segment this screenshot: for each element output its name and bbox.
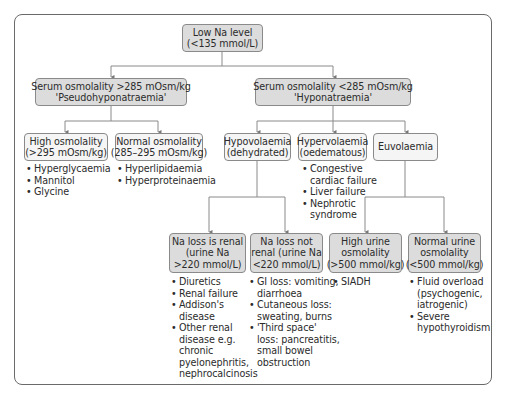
high-urine-line1: High urine [341,236,390,248]
high-osm-line1: High osmolality [30,136,103,148]
cause-item: Other renaldisease e.g.chronicpyelonephr… [171,322,258,380]
serum-high-line2: 'Pseudohyponatraemia' [56,92,167,104]
hypovol-line1: Hypovolaemia [224,136,292,148]
cause-item: Fluid overload(psychogenic,iatrogenic) [409,276,490,311]
renal-line1: Na loss is renal [172,236,243,248]
renal-line3: >220 mmol/L) [174,259,242,271]
high-osm-line2: (>295 mOsm/kg) [25,147,107,159]
nonrenal-line3: <220 mmol/L) [253,259,321,271]
cause-item: Renal failure [171,288,258,300]
serum-high-line1: Serum osmolality >285 mOsm/kg [31,81,190,93]
normal-urine-line2: osmolality [420,247,468,259]
root-low-na-box: Low Na level (<135 mmol/L) [182,24,263,52]
euvolaemia-box: Euvolaemia [373,133,438,161]
cause-item: SIADH [333,276,371,288]
high-osmolality-causes: Hyperglycaemia Mannitol Glycine [26,163,111,198]
na-loss-not-renal-box: Na loss not renal (urine Na <220 mmol/L) [250,233,323,273]
normal-osm-line1: Normal osmolality [116,136,201,148]
normal-osmolality-causes: Hyperlipidaemia Hyperproteinaemia [117,163,216,186]
hypervol-line2: (oedematous) [300,147,366,159]
cause-item: Hyperglycaemia [26,163,111,175]
renal-line2: (urine Na [186,247,230,259]
cause-item: Mannitol [26,175,111,187]
serum-osm-high-box: Serum osmolality >285 mOsm/kg 'Pseudohyp… [35,78,187,106]
normal-urine-line1: Normal urine [414,236,475,248]
cause-item: Liver failure [302,186,377,198]
nonrenal-causes: GI loss: vomiting,diarrhoea Cutaneous lo… [249,276,340,368]
normal-urine-osmolality-box: Normal urine osmolality (<500 mmol/kg) [408,233,481,273]
serum-low-line2: 'Hyponatraemia' [294,92,372,104]
root-label-line2: (<135 mmol/L) [187,38,258,50]
cause-item: Cutaneous loss:sweating, burns [249,299,340,322]
nonrenal-line1: Na loss not [260,236,312,248]
hypervol-line1: Hypervolaemia [297,136,368,148]
euvol-line1: Euvolaemia [378,141,433,153]
nonrenal-line2: renal (urine Na [251,247,321,259]
hypovolaemia-box: Hypovolaemia (dehydrated) [224,133,291,161]
cause-item: Severehypothyroidism [409,311,490,334]
hypervolaemia-box: Hypervolaemia (oedematous) [298,133,367,161]
na-loss-renal-box: Na loss is renal (urine Na >220 mmol/L) [169,233,246,273]
cause-item: 'Third space'loss: pancreatitis,small bo… [249,322,340,368]
high-osmolality-box: High osmolality (>295 mOsm/kg) [24,133,108,161]
high-urine-line2: osmolality [341,247,389,259]
cause-item: Congestivecardiac failure [302,163,377,186]
hypovol-line2: (dehydrated) [227,147,289,159]
root-label-line1: Low Na level [193,27,253,39]
high-urine-line3: (>500 mmol/kg) [327,259,405,271]
normal-osmolality-box: Normal osmolality (285–295 mOsm/kg) [115,133,203,161]
cause-item: Diuretics [171,276,258,288]
serum-osm-low-box: Serum osmolality <285 mOsm/kg 'Hyponatra… [255,78,411,106]
normal-osm-line2: (285–295 mOsm/kg) [111,147,207,159]
cause-item: GI loss: vomiting,diarrhoea [249,276,340,299]
cause-item: Nephroticsyndrome [302,198,377,221]
renal-causes: Diuretics Renal failure Addison'sdisease… [171,276,258,380]
normal-urine-line3: (<500 mmol/kg) [406,259,484,271]
cause-item: Addison'sdisease [171,299,258,322]
high-urine-causes: SIADH [333,276,371,288]
cause-item: Hyperlipidaemia [117,163,216,175]
cause-item: Glycine [26,186,111,198]
high-urine-osmolality-box: High urine osmolality (>500 mmol/kg) [329,233,402,273]
cause-item: Hyperproteinaemia [117,175,216,187]
serum-low-line1: Serum osmolality <285 mOsm/kg [253,81,412,93]
hypervolaemia-causes: Congestivecardiac failure Liver failure … [302,163,377,221]
normal-urine-causes: Fluid overload(psychogenic,iatrogenic) S… [409,276,490,334]
